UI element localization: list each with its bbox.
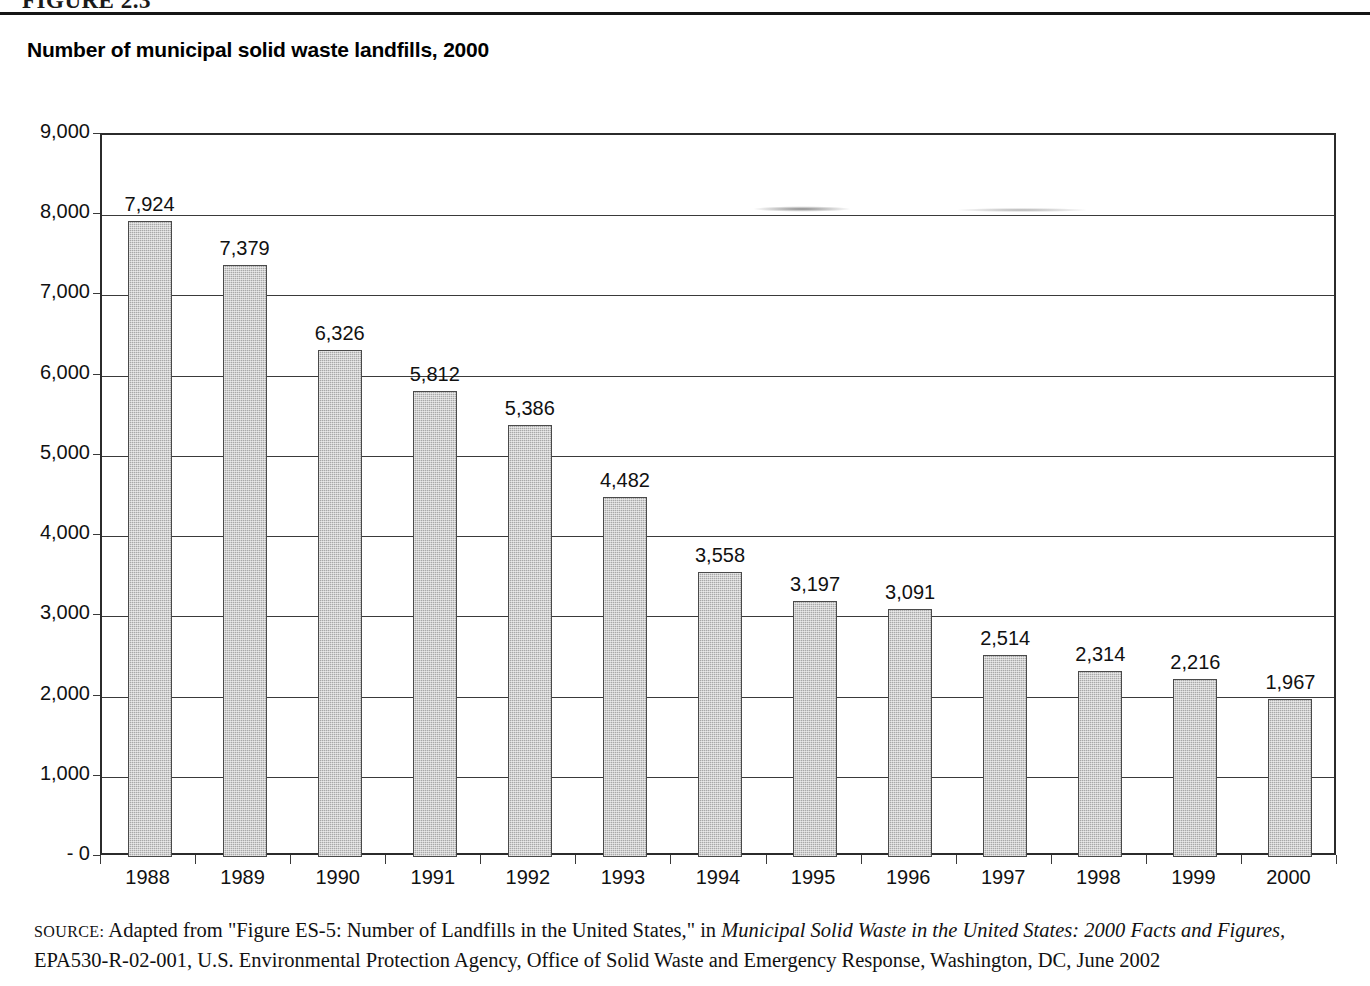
x-axis-tick-mark [766, 855, 767, 864]
x-axis-tick-mark [290, 855, 291, 864]
y-axis-tick-mark [93, 534, 100, 535]
source-label: SOURCE: [34, 923, 104, 940]
y-axis-tick-label: 8,000 [4, 200, 90, 223]
bar [413, 391, 457, 857]
gridline [102, 295, 1334, 296]
bar-value-label: 4,482 [570, 469, 680, 492]
y-axis-tick-label: - 0 [4, 842, 90, 865]
bar [793, 601, 837, 857]
bar [1173, 679, 1217, 857]
bar-value-label: 2,514 [950, 627, 1060, 650]
source-note: SOURCE: Adapted from "Figure ES-5: Numbe… [34, 916, 1354, 974]
bar [318, 350, 362, 857]
x-axis-tick-label: 1991 [378, 866, 488, 889]
x-axis-tick-mark [670, 855, 671, 864]
bar [128, 221, 172, 857]
bar [888, 609, 932, 857]
gridline [102, 536, 1334, 537]
x-axis-tick-mark [385, 855, 386, 864]
bar [983, 655, 1027, 857]
bar-value-label: 3,558 [665, 544, 775, 567]
bar [223, 265, 267, 857]
x-axis-tick-label: 1998 [1043, 866, 1153, 889]
bar [1078, 671, 1122, 857]
x-axis-tick-label: 1989 [188, 866, 298, 889]
x-axis-tick-label: 1999 [1138, 866, 1248, 889]
y-axis-tick-mark [93, 133, 100, 134]
source-text-after: EPA530-R-02-001, U.S. Environmental Prot… [34, 949, 1160, 971]
bar-value-label: 2,314 [1045, 643, 1155, 666]
bar-value-label: 1,967 [1235, 671, 1345, 694]
x-axis-tick-label: 1996 [853, 866, 963, 889]
y-axis-tick-mark [93, 775, 100, 776]
gridline [102, 215, 1334, 216]
y-axis-tick-mark [93, 614, 100, 615]
source-publication-title: Municipal Solid Waste in the United Stat… [721, 919, 1285, 941]
x-axis-tick-mark [480, 855, 481, 864]
x-axis-tick-mark [100, 855, 101, 864]
y-axis-tick-label: 5,000 [4, 441, 90, 464]
bar-value-label: 3,091 [855, 581, 965, 604]
scan-artifact-smudge [662, 203, 1362, 215]
bar-value-label: 7,924 [95, 193, 205, 216]
y-axis-tick-mark [93, 855, 100, 856]
y-axis-tick-label: 3,000 [4, 601, 90, 624]
header-divider-rule [0, 12, 1370, 15]
y-axis-tick-mark [93, 454, 100, 455]
x-axis-tick-mark [1051, 855, 1052, 864]
x-axis-tick-label: 1988 [93, 866, 203, 889]
x-axis-tick-mark [861, 855, 862, 864]
x-axis-tick-label: 1994 [663, 866, 773, 889]
x-axis-tick-mark [575, 855, 576, 864]
chart-plot-area: 7,9247,3796,3265,8125,3864,4823,5583,197… [100, 133, 1336, 855]
y-axis-tick-mark [93, 293, 100, 294]
gridline [102, 376, 1334, 377]
bar-value-label: 2,216 [1140, 651, 1250, 674]
x-axis-tick-mark [956, 855, 957, 864]
bar-value-label: 5,812 [380, 363, 490, 386]
gridline [102, 456, 1334, 457]
x-axis-tick-mark [1241, 855, 1242, 864]
x-axis-tick-label: 1993 [568, 866, 678, 889]
bar [603, 497, 647, 857]
page-title: Number of municipal solid waste landfill… [27, 38, 489, 62]
y-axis-tick-mark [93, 374, 100, 375]
x-axis-tick-label: 2000 [1233, 866, 1343, 889]
bar-value-label: 6,326 [285, 322, 395, 345]
x-axis-tick-label: 1992 [473, 866, 583, 889]
x-axis-tick-label: 1995 [758, 866, 868, 889]
bar [1268, 699, 1312, 857]
y-axis-tick-label: 9,000 [4, 120, 90, 143]
x-axis-tick-label: 1990 [283, 866, 393, 889]
x-axis-tick-mark [1336, 855, 1337, 864]
bar-value-label: 7,379 [190, 237, 300, 260]
y-axis-tick-label: 4,000 [4, 521, 90, 544]
x-axis-tick-mark [1146, 855, 1147, 864]
bar [698, 572, 742, 857]
y-axis-tick-label: 7,000 [4, 280, 90, 303]
x-axis-tick-mark [195, 855, 196, 864]
y-axis-tick-mark [93, 695, 100, 696]
y-axis-tick-label: 6,000 [4, 361, 90, 384]
bar-value-label: 5,386 [475, 397, 585, 420]
y-axis-tick-label: 2,000 [4, 682, 90, 705]
bar-value-label: 3,197 [760, 573, 870, 596]
x-axis-tick-label: 1997 [948, 866, 1058, 889]
y-axis-tick-label: 1,000 [4, 762, 90, 785]
bar [508, 425, 552, 857]
source-text-before: Adapted from "Figure ES-5: Number of Lan… [104, 919, 721, 941]
